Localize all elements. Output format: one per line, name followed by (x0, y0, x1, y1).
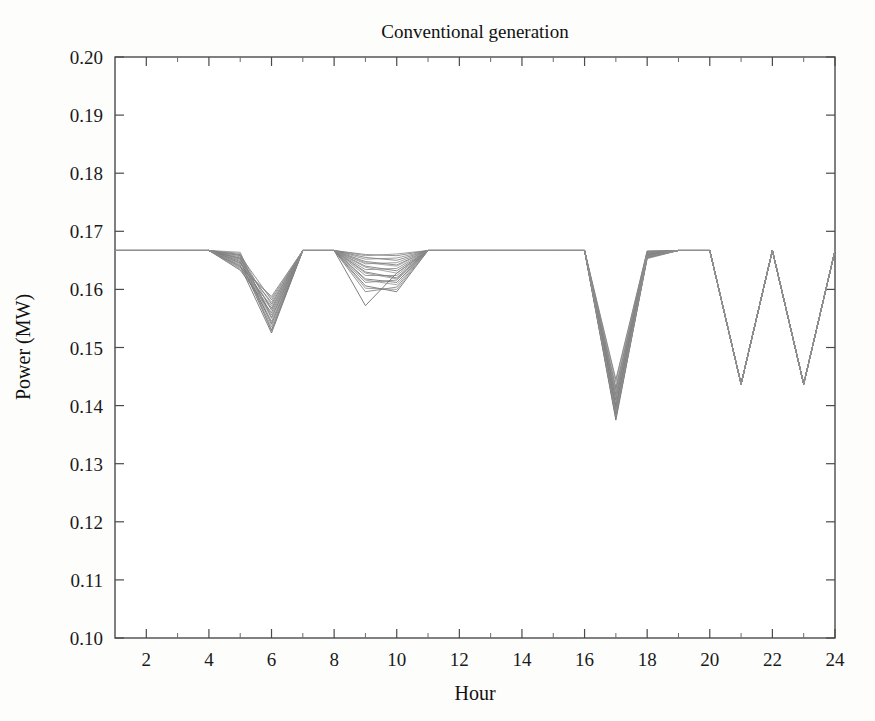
x-tick-label: 8 (329, 649, 339, 670)
x-axis-title: Hour (454, 682, 495, 704)
x-tick-label: 22 (763, 649, 782, 670)
x-tick-label: 12 (450, 649, 469, 670)
x-tick-label: 24 (826, 649, 846, 670)
y-tick-label: 0.15 (70, 338, 103, 359)
x-tick-label: 10 (387, 649, 406, 670)
y-tick-label: 0.11 (70, 570, 103, 591)
chart-title: Conventional generation (381, 21, 569, 42)
x-tick-label: 16 (575, 649, 594, 670)
y-axis-title: Power (MW) (12, 294, 35, 400)
y-tick-label: 0.17 (70, 221, 103, 242)
x-tick-label: 2 (142, 649, 152, 670)
plot-frame (115, 57, 835, 638)
conventional-generation-chart: Conventional generation Power (MW) Hour … (0, 0, 875, 721)
y-tick-label: 0.18 (70, 163, 103, 184)
x-tick-label: 20 (700, 649, 719, 670)
x-tick-label: 6 (267, 649, 277, 670)
x-tick-label: 18 (638, 649, 657, 670)
x-tick-label: 4 (204, 649, 214, 670)
y-tick-label: 0.14 (70, 396, 104, 417)
x-tick-label: 14 (512, 649, 532, 670)
chart-figure: Conventional generation Power (MW) Hour … (0, 0, 875, 721)
y-tick-label: 0.12 (70, 512, 103, 533)
y-tick-label: 0.13 (70, 454, 103, 475)
y-tick-label: 0.20 (70, 47, 103, 68)
y-tick-label: 0.16 (70, 279, 103, 300)
y-tick-label: 0.19 (70, 105, 103, 126)
y-tick-label: 0.10 (70, 628, 103, 649)
